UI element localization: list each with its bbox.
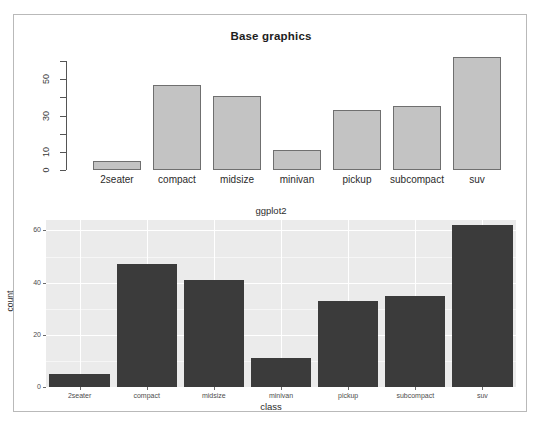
ggplot2-bar [385, 296, 445, 387]
ggplot2-x-tick-mark [415, 387, 416, 390]
base-y-tick-label: 10 [41, 142, 51, 162]
base-x-tick-label: midsize [203, 174, 271, 185]
ggplot2-y-tick-label: 20 [14, 331, 41, 340]
base-bar [153, 85, 201, 170]
ggplot2-x-tick-mark [214, 387, 215, 390]
ggplot2-y-tick-label: 60 [14, 226, 41, 235]
ggplot2-bar [452, 225, 512, 387]
ggplot2-y-tick-mark [43, 387, 46, 388]
ggplot2-x-axis-label: class [14, 401, 528, 412]
base-bar [93, 161, 141, 170]
base-x-tick-label: suv [443, 174, 511, 185]
base-chart-title: Base graphics [14, 30, 528, 42]
ggplot2-x-tick-mark [482, 387, 483, 390]
ggplot2-bar [184, 280, 244, 387]
ggplot2-x-tick-mark [147, 387, 148, 390]
ggplot2-x-tick-mark [348, 387, 349, 390]
figure-frame: Base graphics 0103050 2seatercompactmids… [13, 14, 527, 412]
base-bar [273, 150, 321, 170]
base-graphics-chart: Base graphics 0103050 2seatercompactmids… [14, 15, 528, 201]
base-y-tick-label: 0 [41, 160, 51, 180]
ggplot2-y-tick-label: 0 [14, 383, 41, 392]
ggplot2-bar [318, 301, 378, 387]
base-y-tick-label: 30 [41, 106, 51, 126]
ggplot2-bar [251, 358, 311, 387]
ggplot2-bar [117, 264, 177, 387]
ggplot2-chart: ggplot2 02040602seatercompactmidsizemini… [14, 201, 528, 413]
base-x-tick-label: subcompact [383, 174, 451, 185]
ggplot2-gridline-vertical [80, 220, 81, 387]
base-bar [453, 57, 501, 170]
base-x-tick-label: 2seater [83, 174, 151, 185]
base-bar [393, 106, 441, 170]
ggplot2-y-tick-mark [43, 283, 46, 284]
ggplot2-x-tick-mark [80, 387, 81, 390]
base-x-tick-label: minivan [263, 174, 331, 185]
base-y-tick-label: 50 [41, 69, 51, 89]
ggplot2-y-tick-label: 40 [14, 279, 41, 288]
base-bar [333, 110, 381, 170]
ggplot2-panel [46, 220, 516, 387]
ggplot2-y-tick-mark [43, 335, 46, 336]
ggplot2-y-tick-mark [43, 230, 46, 231]
ggplot2-y-axis-label: count [5, 291, 15, 312]
ggplot2-x-tick-label: suv [442, 392, 522, 399]
base-plot-area [66, 61, 506, 170]
base-x-tick-label: compact [143, 174, 211, 185]
ggplot2-x-tick-mark [281, 387, 282, 390]
base-y-tick [60, 170, 66, 171]
base-x-tick-label: pickup [323, 174, 391, 185]
ggplot2-bar [49, 374, 109, 387]
ggplot2-chart-title: ggplot2 [14, 205, 528, 216]
base-bar [213, 96, 261, 170]
